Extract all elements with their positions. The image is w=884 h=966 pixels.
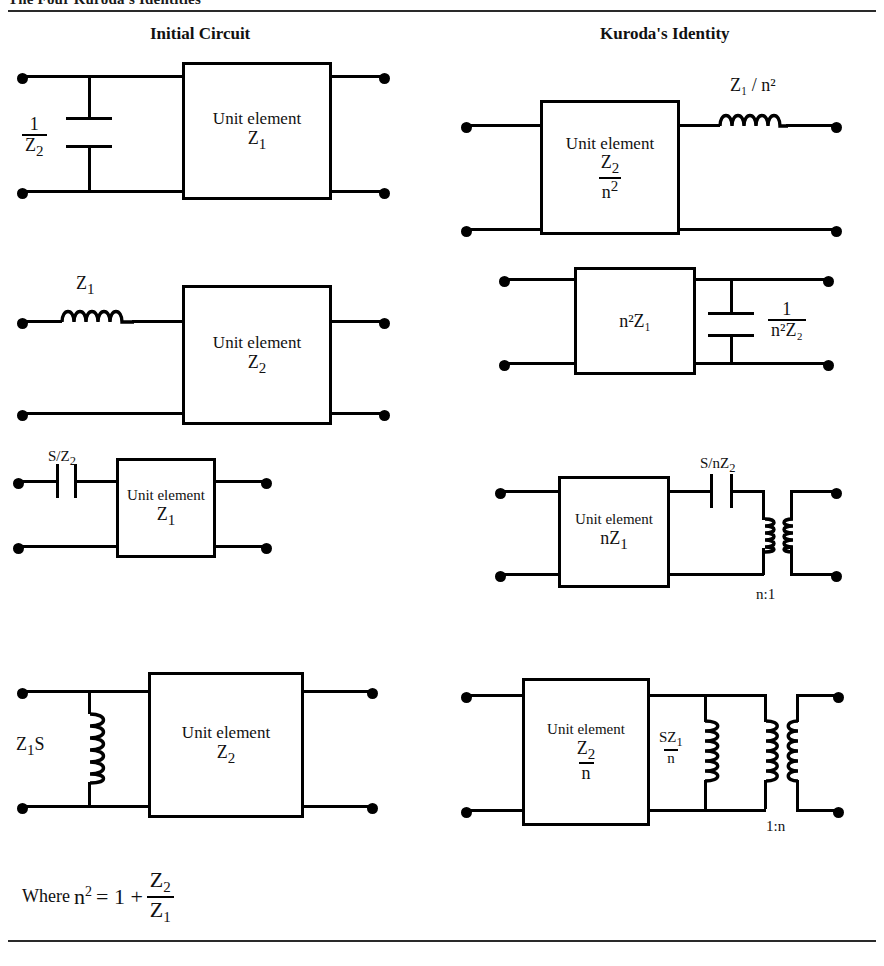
identity-3-transformer-ratio: n:1 <box>756 586 775 603</box>
identity-2-unit-element-box: Unit element Z2 <box>182 285 332 425</box>
kuroda-identities-figure: The Four Kuroda's Identities Initial Cir… <box>0 0 884 966</box>
page-title: The Four Kuroda's Identities <box>8 0 201 8</box>
identity-4-unit-element-box: Unit element Z2 <box>148 672 304 818</box>
identity-3-kuroda-unit-element-box: Unit element nZ1 <box>558 476 670 588</box>
shunt-inductor-icon <box>78 712 110 784</box>
identity-4-kuroda-unit-element-box: Unit element Z2 n <box>522 678 650 826</box>
transformer-secondary-coil-icon <box>780 518 806 552</box>
identity-1-series-label: Z₁ / n² <box>730 76 776 96</box>
identity-2-kuroda-box: n²Z₁ <box>574 267 696 375</box>
shunt-inductor-icon <box>694 720 724 782</box>
identity-4-transformer-ratio: 1:n <box>766 818 785 835</box>
identity-2-series-label: Z1 <box>76 274 95 297</box>
transformer-primary-coil-icon <box>754 720 782 782</box>
column-header-initial-circuit: Initial Circuit <box>150 24 250 44</box>
series-inductor-icon <box>718 110 790 140</box>
transformer-secondary-coil-icon <box>784 720 812 782</box>
transformer-primary-coil-icon <box>752 518 778 552</box>
series-inductor-icon <box>60 306 136 336</box>
identity-1-shunt-label: 1 Z2 <box>22 115 47 159</box>
identity-1-kuroda-unit-element-box: Unit element Z2 n2 <box>540 100 680 235</box>
identity-1-unit-element-box: Unit element Z1 <box>182 62 332 200</box>
identity-3-unit-element-box: Unit element Z1 <box>116 458 216 558</box>
identity-3-series-label: S/Z2 <box>48 448 76 469</box>
identity-4-shunt-label: Z1S <box>16 735 45 758</box>
identity-3-series-label: S/nZ2 <box>700 455 735 476</box>
identity-2-shunt-label: 1 n²Z₂ <box>768 300 806 340</box>
column-header-kurodas-identity: Kuroda's Identity <box>600 24 730 44</box>
rule-bottom <box>8 940 876 942</box>
footnote-formula: Where n2 = 1 + Z2 Z1 <box>22 868 174 926</box>
rule-top <box>8 10 876 12</box>
identity-4-shunt-label: SZ1 n <box>656 730 686 767</box>
